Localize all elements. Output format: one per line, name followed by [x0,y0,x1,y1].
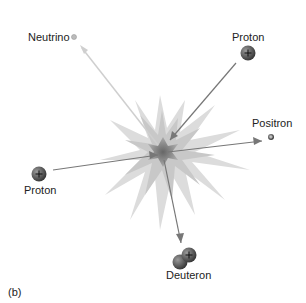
proton-left-label: Proton [24,184,56,196]
deuteron-label: Deuteron [166,269,211,281]
deuteron-particle [173,248,197,270]
positron-particle [268,134,274,140]
neutrino-label: Neutrino [28,31,70,43]
proton-top-particle [241,46,256,61]
proton-top-arrow [170,63,236,140]
proton-left-particle [32,167,47,182]
proton-top-label: Proton [232,31,264,43]
positron-label: Positron [252,117,292,129]
neutrino-arrow [80,45,158,145]
figure-label: (b) [8,286,21,298]
collision-burst [100,95,250,230]
neutrino-particle [72,35,77,40]
fusion-diagram [0,0,306,303]
